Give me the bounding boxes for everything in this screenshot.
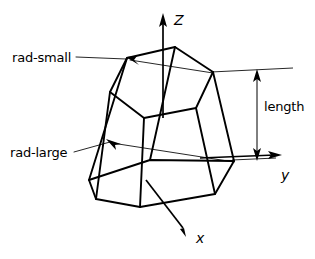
y-axis-label: y xyxy=(280,167,290,183)
length-ext-top xyxy=(211,68,293,72)
coordinate-axes: Z y x xyxy=(146,12,290,246)
rad-large-span-line xyxy=(112,143,234,162)
rad-large-arrowhead xyxy=(106,139,121,150)
diagram-canvas: Z y x rad-small rad-large len xyxy=(0,0,315,259)
rad-large-label: rad-large xyxy=(10,145,68,160)
x-axis-line xyxy=(146,180,183,228)
side-edge-4 xyxy=(196,108,215,194)
rad-small-leader xyxy=(76,57,126,59)
length-label: length xyxy=(264,99,304,114)
length-ext-bottom xyxy=(232,158,276,160)
side-edge-3 xyxy=(213,72,234,161)
length-dimension: length xyxy=(211,68,304,161)
side-edge-1 xyxy=(89,58,127,180)
z-axis-label: Z xyxy=(173,12,184,28)
rad-small-label: rad-small xyxy=(12,50,71,65)
rad-small-arrowhead xyxy=(126,56,139,65)
hexagonal-frustum-figure: Z y x rad-small rad-large len xyxy=(0,0,315,259)
frustum-wireframe xyxy=(89,47,234,207)
y-axis-line xyxy=(200,155,275,158)
rad-small-annotation: rad-small xyxy=(12,50,213,73)
x-axis-label: x xyxy=(195,230,205,246)
rad-large-leader xyxy=(74,142,110,152)
